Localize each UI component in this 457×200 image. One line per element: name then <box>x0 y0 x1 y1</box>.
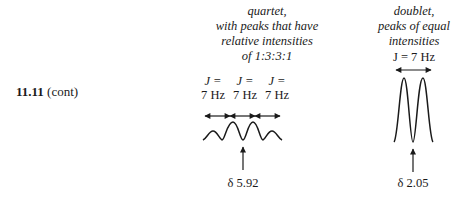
doublet-multiplet-icon <box>394 78 433 142</box>
quartet-shift-label: δ 5.92 <box>218 176 268 191</box>
doublet-shift-label: δ 2.05 <box>388 176 438 191</box>
nmr-spectrum-drawing <box>0 0 457 200</box>
quartet-multiplet-icon <box>203 122 282 140</box>
